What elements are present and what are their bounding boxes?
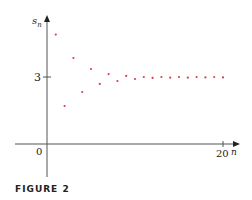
data-points	[55, 34, 224, 108]
figure-caption: FIGURE 2	[15, 184, 70, 194]
data-point	[72, 57, 74, 59]
data-point	[178, 76, 180, 78]
sequence-plot: sn 3 0 20 n	[0, 0, 252, 200]
data-point	[152, 77, 154, 79]
data-point	[99, 83, 101, 85]
x-axis-label: n	[231, 147, 237, 157]
y-axis-label: sn	[32, 15, 42, 29]
data-point	[125, 75, 127, 77]
x-tick-label: 20	[216, 148, 229, 159]
data-point	[160, 76, 162, 78]
data-point	[90, 68, 92, 70]
origin-label: 0	[36, 146, 42, 157]
data-point	[81, 91, 83, 93]
data-point	[134, 78, 136, 80]
data-point	[187, 77, 189, 79]
data-point	[213, 76, 215, 78]
y-tick-label: 3	[34, 71, 41, 84]
data-point	[204, 76, 206, 78]
y-axis-arrow-icon	[44, 15, 50, 22]
data-point	[64, 105, 66, 107]
data-point	[222, 76, 224, 78]
data-point	[196, 76, 198, 78]
data-point	[116, 80, 118, 82]
data-point	[169, 77, 171, 79]
data-point	[55, 34, 57, 36]
data-point	[108, 73, 110, 75]
data-point	[143, 76, 145, 78]
